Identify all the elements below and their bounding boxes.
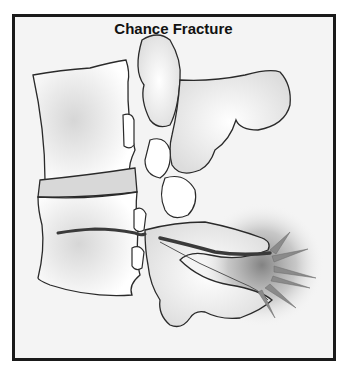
pedicle-lower-2	[132, 247, 144, 270]
upper-vertebral-body	[33, 60, 135, 180]
spine-illustration	[0, 0, 347, 372]
superior-process	[138, 35, 180, 127]
upper-spinous-process	[170, 71, 290, 174]
figure-title: Chance Fracture	[0, 20, 347, 37]
facet-joint-middle	[162, 177, 196, 218]
pedicle-lower-1	[134, 208, 146, 231]
facet-joint-upper	[145, 139, 170, 178]
pedicle-upper	[123, 114, 134, 148]
lower-vertebral-body	[38, 192, 140, 296]
